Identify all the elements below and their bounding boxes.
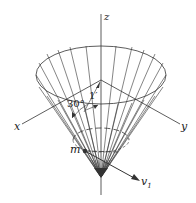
velocity-label: v1: [141, 176, 152, 190]
velocity-arrowhead: [131, 174, 140, 181]
length-label: 1′: [89, 91, 98, 101]
angle-label: 30°: [67, 99, 85, 109]
cone-diagram: [0, 0, 196, 203]
y-axis-label: y: [181, 121, 187, 132]
x-axis-label: x: [14, 121, 20, 132]
mass-label: m: [70, 144, 80, 155]
velocity-subscript: 1: [147, 182, 151, 190]
z-axis-label: z: [104, 12, 109, 22]
apex: [94, 168, 108, 178]
mass-particle: [83, 149, 87, 153]
